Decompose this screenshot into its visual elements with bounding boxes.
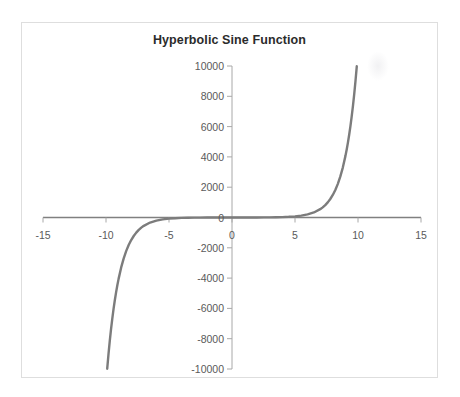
y-tick-label: -10000: [178, 363, 224, 375]
y-tick-label: -8000: [178, 333, 224, 345]
y-tick-label: 6000: [178, 121, 224, 133]
plot-area: -10000-8000-6000-4000-200002000400060008…: [22, 23, 439, 379]
y-tick-label: 2000: [178, 181, 224, 193]
x-tick-label: 15: [415, 229, 427, 241]
y-tick-label: -2000: [178, 242, 224, 254]
y-tick-label: 0: [178, 212, 224, 224]
x-tick-label: 5: [292, 229, 298, 241]
y-tick-label: 4000: [178, 151, 224, 163]
x-tick-label: -15: [35, 229, 50, 241]
y-tick-label: 10000: [178, 60, 224, 72]
x-tick-label: 0: [229, 229, 235, 241]
y-tick-label: -4000: [178, 272, 224, 284]
x-tick-label: 10: [352, 229, 364, 241]
y-tick-label: 8000: [178, 90, 224, 102]
y-tick-label: -6000: [178, 302, 224, 314]
x-tick-label: -10: [98, 229, 113, 241]
chart-frame: Hyperbolic Sine Function -10000-8000-600…: [21, 22, 438, 378]
chart-canvas: [22, 23, 439, 379]
x-tick-label: -5: [164, 229, 173, 241]
